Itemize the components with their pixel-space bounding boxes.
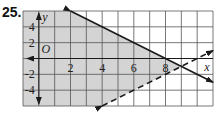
svg-text:y: y	[41, 10, 48, 24]
svg-text:O: O	[41, 42, 50, 56]
inequality-graph: 246842-2-4yxO	[0, 0, 221, 117]
svg-text:-4: -4	[25, 83, 35, 97]
svg-text:8: 8	[163, 61, 169, 75]
svg-text:6: 6	[131, 61, 137, 75]
svg-text:4: 4	[29, 20, 35, 34]
svg-text:4: 4	[99, 61, 105, 75]
svg-text:2: 2	[68, 61, 74, 75]
svg-text:x: x	[203, 60, 210, 74]
svg-text:2: 2	[29, 36, 35, 50]
svg-text:-2: -2	[25, 67, 35, 81]
